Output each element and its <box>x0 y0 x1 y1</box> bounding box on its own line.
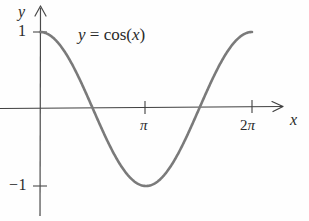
equation-close-paren: ) <box>140 25 146 44</box>
equation-argument: x <box>132 25 140 44</box>
curve-alt-unused <box>40 32 297 189</box>
x-tick-label-pi: π <box>140 118 148 133</box>
y-axis <box>35 6 46 216</box>
x-tick-label-two-pi-number: 2 <box>240 117 248 133</box>
y-axis-label: y <box>18 4 25 20</box>
equation-function-name: cos <box>104 25 127 44</box>
x-tick-label-two-pi: 2π <box>240 118 255 133</box>
curve-sampled-unused <box>40 32 252 173</box>
y-axis-line <box>40 8 41 216</box>
equation-annotation: y = cos(x) <box>78 26 145 43</box>
cosine-graph-figure: y x 1 −1 π 2π y = cos(x) <box>0 0 309 221</box>
equation-lhs: y <box>78 25 86 44</box>
y-tick-label-neg-one: −1 <box>9 177 27 193</box>
cosine-curve <box>40 32 252 186</box>
equation-equals: = <box>86 25 104 44</box>
cosine-curve-guide <box>40 32 264 186</box>
curve-alt2-unused <box>40 32 264 179</box>
y-tick-label-one: 1 <box>18 23 26 39</box>
x-axis-label: x <box>290 112 297 128</box>
plot-canvas <box>0 0 309 221</box>
x-axis <box>0 102 283 112</box>
x-axis-line <box>0 107 283 109</box>
x-tick-label-two-pi-symbol: π <box>248 117 256 133</box>
